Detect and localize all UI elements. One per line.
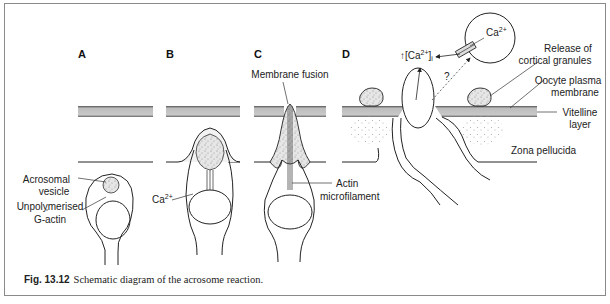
sperm-head-b: [178, 128, 240, 255]
panel-label-c: C: [254, 48, 262, 60]
svg-text:cortical granules: cortical granules: [519, 55, 592, 66]
sperm-head-a: [86, 174, 133, 265]
label-microfilament: microfilament: [320, 191, 380, 202]
svg-text:layer: layer: [569, 119, 591, 130]
label-zona-pellucida: Zona pellucida: [511, 145, 576, 156]
vitelline-layer-a: [78, 106, 153, 117]
label-g-actin: Unpolymerised: [17, 201, 84, 212]
nucleus-b: [189, 190, 231, 224]
vitelline-layer-b: [166, 106, 240, 117]
label-question: ?: [444, 71, 450, 82]
acrosome-diagram: A B C D: [0, 0, 610, 304]
label-membrane-fusion: Membrane fusion: [251, 69, 328, 80]
label-actin: Actin: [336, 178, 358, 189]
label-acrosomal-vesicle: Acrosomal: [23, 174, 70, 185]
calcium-store: [436, 13, 515, 63]
figure-number: Fig. 13.12: [24, 274, 70, 285]
nucleus-a: [96, 201, 130, 239]
label-vitelline-layer: Vitelline: [563, 107, 598, 118]
panel-label-d: D: [342, 48, 350, 60]
label-cortical-granules: Release of: [544, 43, 592, 54]
panel-label-a: A: [78, 48, 86, 60]
label-ca-intracellular: ↑[Ca2+]i: [400, 49, 433, 62]
svg-text:G-actin: G-actin: [34, 214, 66, 225]
panel-label-b: B: [166, 48, 174, 60]
vitelline-layer-d: [342, 106, 537, 117]
svg-text:vesicle: vesicle: [39, 186, 70, 197]
acrosomal-vesicle-a: [103, 177, 119, 193]
label-ca-b: Ca2+: [152, 193, 173, 205]
caption-text: Schematic diagram of the acrosome reacti…: [74, 274, 264, 285]
nucleus-c: [268, 195, 312, 229]
svg-text:membrane: membrane: [551, 87, 599, 98]
fusing-nucleus-d: [402, 68, 434, 128]
figure-caption: Fig. 13.12Schematic diagram of the acros…: [24, 274, 263, 285]
label-oocyte-membrane: Oocyte plasma: [535, 75, 602, 86]
